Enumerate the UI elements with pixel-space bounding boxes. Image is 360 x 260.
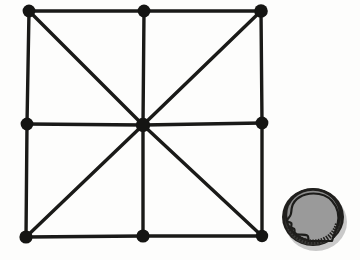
figure-root	[0, 0, 360, 260]
graph-edge-spoke-left	[27, 124, 143, 125]
graph-edge-left-lower-segment	[26, 124, 27, 237]
graph-node-bottom-right	[256, 230, 268, 242]
graph-figure-svg	[0, 0, 360, 260]
graph-node-left-middle	[21, 118, 34, 131]
graph-node-center	[136, 118, 150, 132]
coin-edge-tick	[310, 239, 311, 244]
graph-edge-bottom-left-segment	[26, 236, 143, 237]
graph-node-bottom-left	[19, 230, 32, 243]
graph-edge-spoke-up	[143, 11, 144, 125]
graph-node-right-middle	[256, 117, 269, 130]
graph-edge-spoke-right	[143, 123, 262, 125]
graph-node-top-left	[23, 5, 36, 18]
coin-edge-tick	[316, 239, 317, 244]
graph-node-top-middle	[138, 5, 151, 18]
graph-node-top-right	[254, 4, 268, 18]
graph-node-bottom-middle	[136, 229, 149, 242]
graph-edge-left-upper-segment	[27, 11, 29, 124]
graph-edge-right-upper-segment	[261, 11, 262, 123]
